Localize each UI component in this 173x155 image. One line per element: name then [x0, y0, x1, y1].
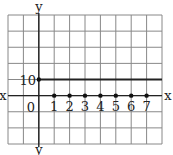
- y-axis-label-bottom: y: [34, 142, 43, 155]
- data-point: [114, 93, 118, 97]
- data-point: [129, 93, 133, 97]
- x-tick-label: 5: [112, 99, 120, 114]
- x-tick-label: 2: [65, 99, 73, 114]
- x-tick-label: 3: [81, 99, 89, 114]
- line-start-point: [37, 77, 41, 81]
- data-point: [83, 93, 87, 97]
- x-axis-label-left: x: [0, 88, 7, 103]
- x-axis-label-right: x: [164, 88, 172, 103]
- x-tick-label: 1: [50, 99, 58, 114]
- origin-label: 0: [27, 100, 35, 115]
- y-tick-label-10: 10: [19, 73, 36, 88]
- data-point: [98, 93, 102, 97]
- x-tick-label: 6: [127, 99, 135, 114]
- x-tick-label: 7: [142, 99, 150, 114]
- coordinate-grid: y y x x 0 10 1234567: [0, 0, 173, 155]
- y-axis-label-top: y: [34, 0, 43, 14]
- data-point: [144, 93, 148, 97]
- data-series: [37, 77, 162, 98]
- x-tick-label: 4: [96, 99, 104, 114]
- data-point: [52, 93, 56, 97]
- data-point: [67, 93, 71, 97]
